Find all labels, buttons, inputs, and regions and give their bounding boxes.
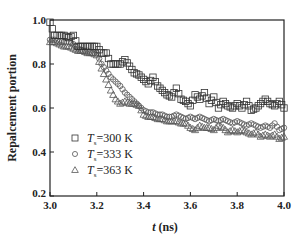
x-tick-label: 3.8 — [230, 199, 244, 211]
y-axis-title: Repalcement portion — [5, 54, 19, 162]
data-markers — [46, 19, 287, 141]
x-tick-label: 3.2 — [90, 199, 104, 211]
legend: Ts=300 KTs=333 KTs=363 K — [72, 131, 133, 179]
x-tick-label: 3.4 — [137, 199, 151, 211]
y-tick-label: 0.8 — [32, 58, 46, 70]
y-tick-label: 0.4 — [32, 146, 46, 158]
x-tick-label: 3.6 — [184, 199, 198, 211]
legend-label: Ts=363 K — [87, 163, 133, 179]
chart-canvas: 3.03.23.43.63.84.00.20.40.60.81.0 Ts=300… — [0, 0, 302, 236]
legend-label: Ts=300 K — [87, 131, 133, 147]
y-tick-label: 0.2 — [32, 187, 46, 199]
x-axis-title: t (ns) — [152, 220, 178, 234]
plot-area-border — [50, 20, 284, 196]
legend-item: Ts=300 K — [72, 131, 133, 147]
legend-item: Ts=333 K — [72, 147, 133, 163]
y-tick-label: 1.0 — [32, 14, 46, 26]
x-tick-label: 4.0 — [277, 199, 291, 211]
plot-frame — [50, 20, 284, 196]
y-tick-label: 0.6 — [32, 102, 46, 114]
x-tick-label: 3.0 — [43, 199, 57, 211]
legend-label: Ts=333 K — [87, 147, 133, 163]
legend-item: Ts=363 K — [72, 163, 133, 179]
series-square — [47, 19, 287, 113]
